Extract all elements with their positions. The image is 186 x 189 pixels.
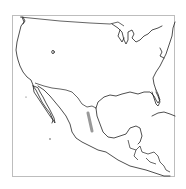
great-lakes (112, 24, 162, 44)
baja-california (33, 86, 55, 123)
island-dot (49, 138, 51, 140)
gulf-coast (96, 90, 160, 108)
map-canvas (0, 0, 186, 189)
east-coast (153, 22, 175, 90)
chesapeake-bay (160, 48, 164, 58)
species-range (88, 113, 92, 131)
mexico-gulf-coast (96, 108, 142, 144)
mexico-pacific-coast (38, 86, 170, 176)
us-canada-border (20, 17, 124, 26)
west-coast (16, 17, 53, 123)
island-dot (25, 96, 26, 97)
great-salt-lake (52, 50, 55, 53)
florida (152, 92, 160, 106)
us-mexico-border (35, 83, 96, 108)
cuba (152, 112, 175, 116)
